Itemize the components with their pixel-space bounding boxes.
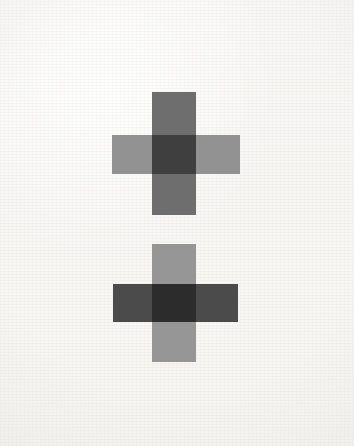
lower-cross-horizontal-bar [113, 284, 238, 322]
lower-cross [0, 0, 354, 446]
artwork-canvas [0, 0, 354, 446]
